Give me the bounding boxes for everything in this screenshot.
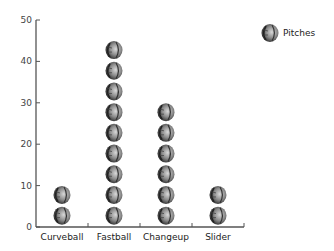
baseball-icon-partial <box>106 20 123 38</box>
legend-baseball-icon <box>262 24 279 42</box>
y-tick-label: 30 <box>21 98 33 108</box>
x-category-label: Curveball <box>41 232 84 242</box>
baseball-icon-partial <box>210 165 227 183</box>
icon-stack <box>158 82 175 224</box>
baseball-icon-partial <box>54 165 71 183</box>
y-tick-label: 50 <box>21 15 33 25</box>
baseball-icon <box>54 186 71 204</box>
icon-stack <box>210 165 227 224</box>
baseball-icon <box>106 41 123 59</box>
baseball-icon <box>210 186 227 204</box>
baseball-icon <box>106 82 123 100</box>
axes: 01020304050CurveballFastballChangeupSlid… <box>21 15 244 242</box>
baseball-icon <box>210 207 227 225</box>
y-tick-label: 0 <box>26 222 32 232</box>
y-tick-label: 10 <box>21 181 33 191</box>
y-tick-label: 20 <box>21 139 33 149</box>
baseball-icon <box>106 186 123 204</box>
baseball-icon <box>106 62 123 80</box>
baseball-icon <box>106 207 123 225</box>
baseball-icon <box>158 186 175 204</box>
legend-label: Pitches <box>283 28 315 38</box>
icon-stack <box>106 20 123 224</box>
pictograph-chart: 01020304050CurveballFastballChangeupSlid… <box>0 0 334 251</box>
baseball-icon <box>158 124 175 142</box>
baseball-icon <box>158 165 175 183</box>
baseball-icon <box>158 103 175 121</box>
icon-stack <box>54 165 71 224</box>
y-tick-label: 40 <box>21 56 33 66</box>
legend: Pitches <box>262 24 316 42</box>
icon-bars <box>54 20 227 224</box>
baseball-icon <box>158 145 175 163</box>
baseball-icon <box>106 145 123 163</box>
baseball-icon <box>106 165 123 183</box>
baseball-icon <box>106 103 123 121</box>
x-category-label: Fastball <box>97 232 131 242</box>
baseball-icon-partial <box>158 82 175 100</box>
baseball-icon <box>54 207 71 225</box>
x-category-label: Changeup <box>143 232 189 242</box>
baseball-icon <box>106 124 123 142</box>
x-category-label: Slider <box>205 232 231 242</box>
baseball-icon <box>158 207 175 225</box>
